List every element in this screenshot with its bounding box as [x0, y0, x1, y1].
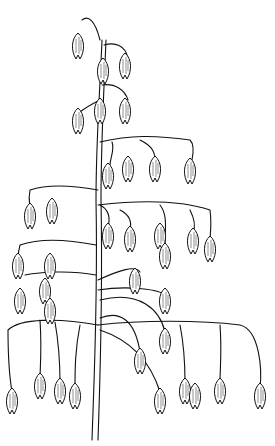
spikelet — [6, 388, 17, 414]
spikelet — [44, 253, 55, 279]
spikelet — [154, 388, 165, 414]
spikelet — [102, 163, 113, 189]
spikelet — [72, 33, 83, 59]
spikelet — [187, 228, 198, 254]
spikelet — [72, 108, 83, 134]
oat-plant-drawing — [0, 0, 275, 446]
spikelet — [102, 223, 113, 249]
oat-illustration — [0, 0, 275, 446]
spikelet — [214, 378, 225, 404]
spikelet — [97, 58, 108, 84]
spikelet — [34, 373, 45, 399]
spikelet — [119, 98, 130, 124]
spikelet — [159, 328, 170, 354]
spikelet — [46, 198, 57, 224]
spikelet — [254, 383, 265, 409]
branches — [8, 18, 261, 392]
spikelet — [129, 268, 140, 294]
spikelet — [189, 383, 200, 409]
spikelet — [69, 383, 80, 409]
spikelet — [12, 253, 23, 279]
spikelet — [14, 288, 25, 314]
spikelet — [204, 236, 215, 262]
spikelet — [122, 156, 133, 182]
spikelet — [54, 378, 65, 404]
spikelet — [149, 156, 160, 182]
spikelet — [24, 203, 35, 229]
spikelet — [159, 288, 170, 314]
spikelet — [124, 226, 135, 252]
spikelets — [6, 33, 265, 414]
spikelet — [179, 378, 190, 404]
spikelet — [184, 158, 195, 184]
spikelet — [119, 53, 130, 79]
